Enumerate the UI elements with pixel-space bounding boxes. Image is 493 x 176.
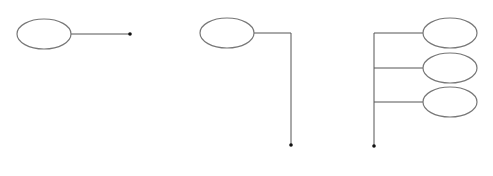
ellipse-node — [17, 19, 71, 49]
ellipse-node — [423, 53, 477, 83]
diagram-canvas — [0, 0, 493, 176]
ellipse-node — [200, 18, 254, 48]
multi-branch-connector — [372, 18, 477, 148]
endpoint-dot — [128, 32, 132, 36]
endpoint-dot — [372, 144, 376, 148]
single-horizontal-connector — [17, 19, 132, 49]
ellipse-node — [423, 87, 477, 117]
ellipse-node — [423, 18, 477, 48]
elbow-connector — [200, 18, 293, 147]
endpoint-dot — [289, 143, 293, 147]
